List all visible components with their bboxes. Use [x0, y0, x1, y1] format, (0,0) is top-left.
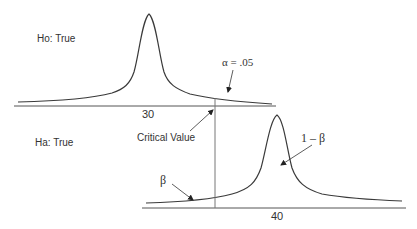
alternative-distribution	[142, 115, 406, 208]
null-mean-tick-label: 30	[142, 109, 154, 120]
power-arrow	[281, 145, 312, 165]
critical-value-arrow	[190, 110, 213, 131]
beta-label: β	[160, 174, 166, 186]
power-label: 1 – β	[301, 132, 325, 144]
beta-arrow	[172, 184, 193, 200]
alpha-label: α = .05	[222, 57, 253, 68]
alt-hypothesis-label: Ha: True	[35, 138, 73, 148]
alpha-arrow	[228, 70, 233, 92]
null-hypothesis-label: Ho: True	[37, 34, 75, 44]
critical-value-label: Critical Value	[137, 133, 195, 143]
alt-curve	[146, 115, 402, 203]
alt-mean-tick-label: 40	[271, 211, 283, 222]
hypothesis-test-diagram: Ho: True 30 α = .05 Critical Value Ha: T…	[0, 0, 417, 229]
